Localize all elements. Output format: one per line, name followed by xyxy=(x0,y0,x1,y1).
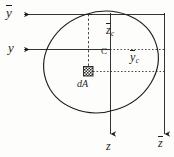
ybar-c-symbol: y xyxy=(130,50,135,63)
centroid-area-diagram: y y zc C yc dA z z xyxy=(0,0,174,157)
centroid-label-text: C xyxy=(101,46,107,56)
z-axis-label: z xyxy=(106,140,111,152)
differential-area-element xyxy=(84,67,94,77)
y-axis-label: y xyxy=(8,41,14,54)
zbar-c-symbol: z xyxy=(106,23,111,36)
centroid-label: C xyxy=(101,47,107,56)
zbar-c-dimension-label: zc xyxy=(106,23,114,37)
area-outline xyxy=(30,0,171,127)
ybar-axis-label: y xyxy=(6,5,12,19)
zbar-axis-label-text: z xyxy=(158,136,163,149)
centroidal-axes xyxy=(24,13,164,134)
reference-frame xyxy=(24,13,165,134)
ybar-c-dimension-label: yc xyxy=(130,50,139,64)
y-axis-label-text: y xyxy=(8,40,14,55)
zbar-axis-label: z xyxy=(158,136,163,149)
zbar-c-subscript: c xyxy=(111,29,114,38)
da-label: dA xyxy=(77,79,88,89)
da-square xyxy=(84,67,94,77)
da-label-text: dA xyxy=(77,78,88,89)
ybar-axis-label-text: y xyxy=(6,5,12,19)
projection-lines xyxy=(89,14,165,72)
ybar-c-subscript: c xyxy=(136,56,139,65)
z-axis-label-text: z xyxy=(106,139,111,153)
